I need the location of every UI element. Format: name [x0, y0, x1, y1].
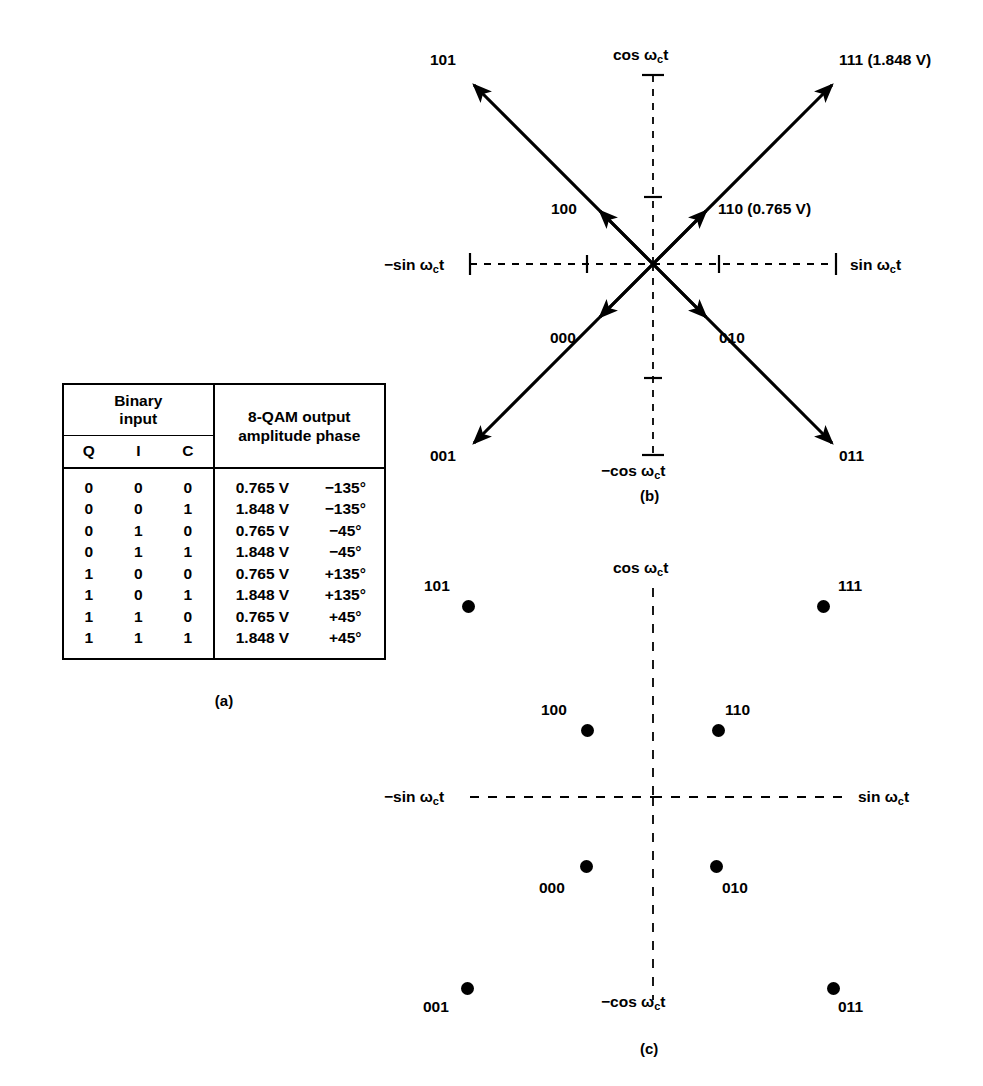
constellation-axis-label-neg-cos: −cos ωct: [601, 994, 665, 1010]
constellation-axis-label-sin-sub: c: [898, 795, 904, 807]
constellation-label-100: 100: [541, 702, 567, 718]
constellation-point-001: [461, 982, 474, 995]
constellation-axis-label-neg-sin-text: −sin ω: [384, 788, 433, 805]
constellation-axis-label-neg-cos-sub: c: [654, 1000, 660, 1012]
constellation-diagram-svg: [0, 0, 983, 1086]
constellation-label-001: 001: [423, 999, 449, 1015]
constellation-point-011: [827, 982, 840, 995]
constellation-axis-label-sin-text: sin ω: [858, 788, 898, 805]
constellation-axis-label-neg-cos-tail: t: [660, 993, 665, 1010]
constellation-axis-label-cos-sub: c: [657, 566, 663, 578]
constellation-point-000: [580, 860, 593, 873]
constellation-label-101: 101: [424, 578, 450, 594]
constellation-label-111: 111: [838, 578, 862, 594]
constellation-point-111: [817, 600, 830, 613]
constellation-point-110: [712, 724, 725, 737]
constellation-label-010: 010: [722, 880, 748, 896]
constellation-axis-label-neg-sin-tail: t: [439, 788, 444, 805]
constellation-label-000: 000: [539, 880, 565, 896]
constellation-axis-label-neg-cos-text: −cos ω: [601, 993, 654, 1010]
constellation-axes: [470, 588, 844, 1000]
constellation-label-110: 110: [725, 702, 750, 718]
constellation-axis-label-neg-sin-sub: c: [433, 795, 439, 807]
constellation-label-011: 011: [838, 999, 863, 1015]
constellation-axis-label-cos: cos ωct: [613, 560, 668, 576]
constellation-axis-label-sin: sin ωct: [858, 789, 909, 805]
constellation-axis-label-cos-text: cos ω: [613, 559, 657, 576]
figure-canvas: Binary input 8-QAM output amplitude phas…: [0, 0, 983, 1086]
constellation-point-100: [581, 724, 594, 737]
constellation-axis-label-cos-tail: t: [663, 559, 668, 576]
constellation-axis-label-sin-tail: t: [904, 788, 909, 805]
constellation-axis-label-neg-sin: −sin ωct: [384, 789, 444, 805]
constellation-point-101: [462, 600, 475, 613]
caption-c: (c): [640, 1040, 658, 1057]
constellation-point-010: [710, 860, 723, 873]
